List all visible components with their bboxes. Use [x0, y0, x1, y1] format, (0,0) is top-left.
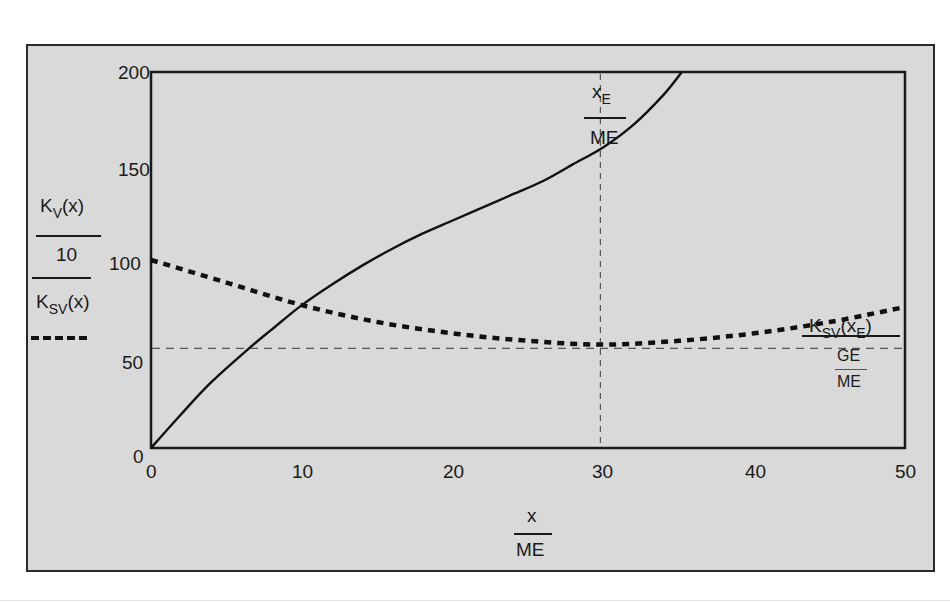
y-label-kv: KV(x): [40, 196, 84, 215]
x-tick-30: 30: [592, 462, 613, 481]
x-tick-50: 50: [895, 462, 916, 481]
x-label-numerator: x: [527, 506, 537, 525]
y-tick-50: 50: [122, 353, 143, 372]
ge-label: GE: [837, 348, 860, 364]
xe-denominator: ME: [590, 128, 619, 147]
y-label-divisor: 10: [56, 245, 77, 264]
ge-me-fraction-bar: [835, 369, 867, 370]
plot-area: [0, 0, 950, 603]
ksv-curve: [151, 260, 905, 345]
ksv-xe-label: KSV(xE): [809, 316, 872, 335]
y-tick-150: 150: [118, 160, 150, 179]
y-tick-0: 0: [133, 447, 144, 466]
x-tick-0: 0: [146, 462, 157, 481]
page-edge-line: [0, 600, 950, 601]
ksv-fraction-bar: [802, 335, 900, 337]
me-label: ME: [837, 374, 861, 390]
x-tick-20: 20: [443, 462, 464, 481]
xe-label: xE: [592, 82, 611, 101]
y-label-separator-bar: [32, 277, 91, 279]
legend-dotted-sample: [31, 336, 87, 340]
axes-box: [151, 72, 905, 448]
y-label-ksv: KSV(x): [36, 292, 90, 311]
y-tick-200: 200: [118, 63, 150, 82]
x-tick-10: 10: [292, 462, 313, 481]
y-label-fraction-bar: [36, 235, 101, 237]
x-tick-40: 40: [745, 462, 766, 481]
x-label-fraction-bar: [514, 533, 552, 535]
xe-fraction-bar: [584, 117, 626, 119]
y-tick-100: 100: [109, 254, 141, 273]
x-label-denominator: ME: [516, 540, 545, 559]
